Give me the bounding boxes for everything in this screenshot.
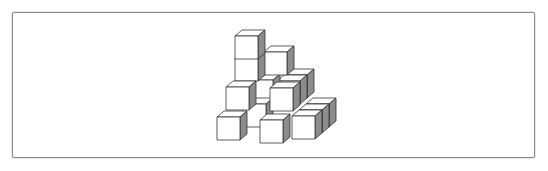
cube-front-face: [226, 87, 249, 110]
cube: [235, 30, 265, 59]
cube-front-face: [260, 120, 283, 143]
cube-front-face: [292, 116, 315, 139]
cube-front-face: [235, 36, 258, 59]
cube-stack-diagram: [0, 0, 548, 171]
cube-front-face: [270, 88, 293, 111]
cube: [264, 46, 294, 75]
cube: [260, 114, 290, 143]
cube: [226, 81, 256, 110]
cube: [217, 111, 247, 140]
cube-front-face: [217, 117, 240, 140]
cube: [292, 110, 322, 139]
cube-front-face: [264, 52, 287, 75]
cube: [270, 82, 300, 111]
cube-front-face: [235, 58, 258, 81]
